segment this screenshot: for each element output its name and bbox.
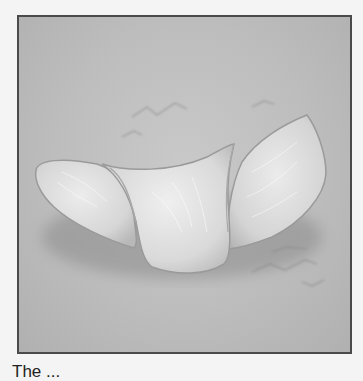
- illustration-frame: [17, 15, 352, 354]
- figure-caption: The ...: [12, 362, 60, 381]
- tissue-flap-illustration: [19, 17, 350, 352]
